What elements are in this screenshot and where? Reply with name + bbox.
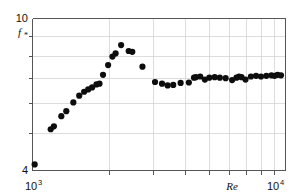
- data-point: [63, 108, 69, 114]
- x-axis-right-base: 10: [267, 180, 279, 192]
- x-axis-right-exponent: 4: [280, 178, 284, 187]
- x-axis-left-tick-label: 10 3: [25, 178, 42, 192]
- y-axis-bottom-tick-label: 4: [22, 164, 28, 176]
- y-axis-title-subscript: *: [24, 31, 28, 40]
- data-point: [58, 113, 64, 119]
- data-point: [217, 75, 223, 81]
- data-point: [223, 75, 229, 81]
- data-point: [178, 80, 184, 86]
- data-point: [159, 81, 165, 87]
- data-point: [70, 99, 76, 105]
- data-point: [112, 50, 118, 56]
- y-axis-top-tick-label: 10: [16, 12, 28, 24]
- data-point: [32, 161, 38, 167]
- data-point: [152, 79, 158, 85]
- data-point: [96, 81, 102, 87]
- x-axis-left-base: 10: [25, 180, 37, 192]
- data-point: [258, 73, 264, 79]
- x-axis-title: Re: [225, 180, 238, 192]
- data-point: [139, 64, 145, 70]
- plot-canvas: 10 4 f * 10 3 10 4 Re: [0, 0, 297, 196]
- data-point: [129, 49, 135, 55]
- data-point: [242, 76, 248, 82]
- grid-lines: [33, 19, 286, 171]
- x-axis-right-tick-label: 10 4: [267, 178, 284, 192]
- data-point: [76, 93, 82, 99]
- x-axis-left-exponent: 3: [38, 178, 42, 187]
- plot-frame: [33, 19, 286, 171]
- data-point: [206, 75, 212, 81]
- data-point: [118, 42, 124, 48]
- data-point: [165, 82, 171, 88]
- data-point: [100, 72, 106, 78]
- y-axis-title: f *: [18, 26, 28, 40]
- data-point: [278, 72, 284, 78]
- y-axis-title-symbol: f: [18, 26, 23, 38]
- data-point: [186, 79, 192, 85]
- scatter-plot-figure: 10 4 f * 10 3 10 4 Re: [0, 0, 297, 196]
- data-point: [170, 82, 176, 88]
- data-point: [105, 62, 111, 68]
- data-point: [51, 123, 57, 129]
- axis-ticks: [29, 37, 275, 175]
